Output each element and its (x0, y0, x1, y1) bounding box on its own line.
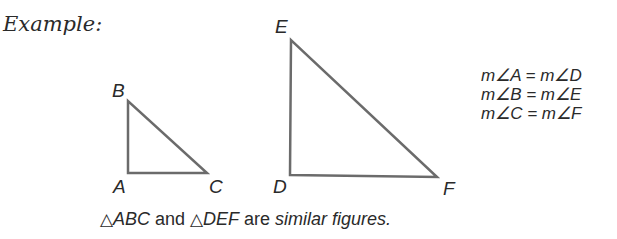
vertex-label-f: F (443, 179, 455, 198)
triangle-abc (128, 101, 207, 173)
equation-b-e: m∠B = m∠E (481, 85, 582, 104)
triangle-symbol: △ (100, 210, 113, 229)
vertex-label-e: E (275, 17, 288, 36)
vertex-label-b: B (112, 81, 125, 100)
vertex-label-a: A (113, 177, 126, 196)
caption-and: and (150, 209, 190, 229)
equation-a-d: m∠A = m∠D (481, 66, 582, 85)
triangle-def (290, 40, 437, 177)
vertex-label-d: D (273, 177, 287, 196)
caption-term: similar figures. (275, 209, 391, 229)
caption-def: DEF (203, 209, 239, 229)
caption-are: are (239, 209, 275, 229)
vertex-label-c: C (209, 177, 223, 196)
equation-c-f: m∠C = m∠F (481, 104, 582, 123)
caption: △ABC and △DEF are similar figures. (100, 209, 391, 230)
triangle-symbol: △ (190, 210, 203, 229)
angle-equalities: m∠A = m∠D m∠B = m∠E m∠C = m∠F (481, 66, 582, 123)
caption-abc: ABC (113, 209, 150, 229)
